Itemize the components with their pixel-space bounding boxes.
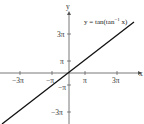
x-tick-label: −3π: [12, 76, 24, 85]
x-axis-label: x: [139, 69, 143, 78]
y-tick-label: −3π: [51, 108, 63, 117]
chart: x y −3π −π π 3π 3π π −π −3π y = tan(tan−…: [0, 0, 144, 124]
y-tick-label: 3π: [57, 30, 65, 39]
y-tick-label: −π: [58, 83, 66, 92]
x-tick-label: π: [83, 76, 87, 85]
y-axis-arrow-icon: [67, 11, 71, 15]
y-axis-label: y: [66, 2, 70, 11]
x-tick-label: 3π: [112, 76, 120, 85]
y-tick-label: π: [60, 57, 64, 66]
function-label: y = tan(tan−1 x): [84, 17, 128, 26]
x-tick-label: −π: [46, 76, 54, 85]
